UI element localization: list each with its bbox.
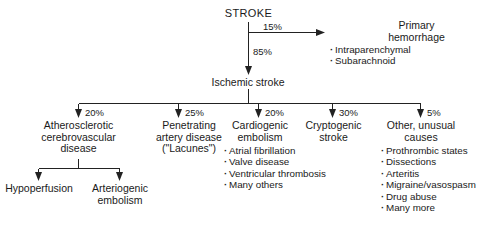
list-item: Drug abuse bbox=[381, 191, 476, 202]
node-primary-hemorrhage: Primary hemorrhage Intraparenchymal Suba… bbox=[330, 19, 495, 67]
other-title-line1: Other, unusual bbox=[375, 120, 467, 132]
percent-label-hemorrhage: 15% bbox=[263, 22, 282, 32]
node-arteriogenic-embolism: Arteriogenic embolism bbox=[82, 183, 158, 206]
list-item: Valve disease bbox=[224, 156, 326, 167]
list-item: Ventricular thrombosis bbox=[224, 168, 326, 179]
node-other-unusual-causes: Other, unusual causes bbox=[375, 120, 467, 143]
other-causes-bullet-list: Prothrombic states Dissections Arteritis… bbox=[381, 145, 476, 213]
percent-label-ischemic: 85% bbox=[253, 47, 272, 57]
drop-arrowhead-2 bbox=[175, 109, 182, 118]
arteriogenic-label-line2: embolism bbox=[82, 195, 158, 207]
hypoperfusion-label: Hypoperfusion bbox=[0, 183, 78, 195]
list-item: Subarachnoid bbox=[330, 55, 495, 66]
list-item: Many others bbox=[224, 179, 326, 190]
athero-subarrow-2 bbox=[116, 172, 123, 181]
primary-hemorrhage-title-line1: Primary bbox=[338, 19, 495, 31]
hemorrhage-arrowhead bbox=[316, 29, 325, 36]
drop-arrowhead-3 bbox=[255, 109, 262, 118]
cardiogenic-bullet-list: Atrial fibrillation Valve disease Ventri… bbox=[224, 145, 326, 191]
other-title-line2: causes bbox=[375, 132, 467, 144]
ischemic-arrowhead bbox=[245, 66, 252, 75]
list-item: Dissections bbox=[381, 156, 476, 167]
drop-arrowhead-1 bbox=[75, 109, 82, 118]
atherosclerotic-title-line1: Atherosclerotic bbox=[19, 120, 138, 132]
cryptogenic-title-line2: stroke bbox=[301, 132, 366, 144]
drop-arrowhead-4 bbox=[329, 109, 336, 118]
cryptogenic-title-line1: Cryptogenic bbox=[301, 120, 366, 132]
stroke-classification-figure: STROKE 15% 85% Primary hemorrhage Intrap… bbox=[0, 0, 497, 231]
arteriogenic-label-line1: Arteriogenic bbox=[82, 183, 158, 195]
percent-label-cardiogenic: 20% bbox=[265, 108, 284, 118]
list-item: Arteritis bbox=[381, 168, 476, 179]
percent-label-atherosclerotic: 20% bbox=[85, 108, 104, 118]
node-cardiogenic-embolism: Cardiogenic embolism bbox=[224, 120, 296, 143]
list-item: Atrial fibrillation bbox=[224, 145, 326, 156]
athero-subarrow-1 bbox=[35, 172, 42, 181]
cardiogenic-title-line1: Cardiogenic bbox=[224, 120, 296, 132]
percent-label-cryptogenic: 30% bbox=[339, 108, 358, 118]
percent-label-other: 5% bbox=[427, 108, 441, 118]
list-item: Prothrombic states bbox=[381, 145, 476, 156]
drop-arrowhead-5 bbox=[417, 109, 424, 118]
cardiogenic-title-line2: embolism bbox=[224, 132, 296, 144]
root-node-stroke: STROKE bbox=[0, 8, 497, 20]
percent-label-penetrating: 25% bbox=[185, 108, 204, 118]
list-item: Intraparenchymal bbox=[330, 44, 495, 55]
list-item: Many more bbox=[381, 202, 476, 213]
primary-hemorrhage-title-line2: hemorrhage bbox=[338, 31, 495, 43]
primary-hemorrhage-bullet-list: Intraparenchymal Subarachnoid bbox=[330, 44, 495, 67]
node-hypoperfusion: Hypoperfusion bbox=[0, 183, 78, 195]
atherosclerotic-title-line3: disease bbox=[19, 143, 138, 155]
node-cryptogenic-stroke: Cryptogenic stroke bbox=[301, 120, 366, 143]
node-atherosclerotic: Atherosclerotic cerebrovascular disease bbox=[19, 120, 138, 155]
list-item: Migraine/vasospasm bbox=[381, 179, 476, 190]
node-ischemic-stroke: Ischemic stroke bbox=[188, 77, 308, 89]
